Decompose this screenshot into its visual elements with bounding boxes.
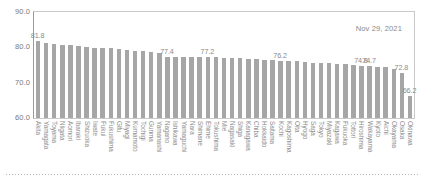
x-axis-tick: Kyoto [375, 120, 380, 172]
bar[interactable] [76, 46, 81, 118]
bar[interactable] [286, 61, 291, 118]
bar[interactable] [68, 45, 73, 118]
bar[interactable] [359, 66, 364, 118]
bar-chart: 90.080.070.060.0 81.877.477.276.274.874.… [0, 0, 424, 182]
bar[interactable] [246, 59, 251, 118]
bar[interactable] [230, 58, 235, 118]
bar[interactable] [157, 53, 162, 118]
bar-slot[interactable] [197, 12, 202, 118]
bar-slot[interactable] [117, 12, 122, 118]
bar-slot[interactable] [311, 12, 316, 118]
bar-slot[interactable] [52, 12, 57, 118]
bar[interactable] [84, 47, 89, 118]
bar-slot[interactable] [92, 12, 97, 118]
bar-slot[interactable] [141, 12, 146, 118]
bar[interactable] [165, 57, 170, 118]
x-axis-tick-label: Akita [35, 121, 41, 135]
bar[interactable] [181, 57, 186, 118]
bar-slot[interactable] [222, 12, 227, 118]
x-axis-tick-label: Wakayama [366, 121, 372, 152]
x-axis-tick: Gunma [149, 120, 154, 172]
bar[interactable] [197, 57, 202, 118]
bar-slot[interactable] [270, 12, 275, 118]
bar[interactable] [254, 59, 259, 118]
bar[interactable] [270, 60, 275, 118]
bar[interactable] [189, 57, 194, 118]
bar-slot[interactable] [125, 12, 130, 118]
x-axis-tick: Tochigi [141, 120, 146, 172]
bar-slot[interactable] [254, 12, 259, 118]
bar-slot[interactable] [157, 12, 162, 118]
bar[interactable] [125, 50, 130, 118]
bar-slot[interactable] [230, 12, 235, 118]
bar-slot[interactable] [408, 12, 413, 118]
bar[interactable] [303, 62, 308, 118]
bar[interactable] [222, 58, 227, 118]
bar-slot[interactable] [60, 12, 65, 118]
bar-slot[interactable] [319, 12, 324, 118]
bar-slot[interactable] [68, 12, 73, 118]
bar[interactable] [295, 61, 300, 118]
bar-slot[interactable] [36, 12, 41, 118]
bar-slot[interactable] [189, 12, 194, 118]
bar-slot[interactable] [76, 12, 81, 118]
bar[interactable] [44, 43, 49, 118]
bar[interactable] [133, 51, 138, 118]
bar[interactable] [400, 73, 405, 118]
bar-slot[interactable] [286, 12, 291, 118]
bar-slot[interactable] [206, 12, 211, 118]
bar-slot[interactable] [295, 12, 300, 118]
bar[interactable] [100, 48, 105, 118]
bar-slot[interactable] [327, 12, 332, 118]
bar[interactable] [375, 67, 380, 118]
bar-slot[interactable] [100, 12, 105, 118]
bar-slot[interactable] [246, 12, 251, 118]
bar[interactable] [262, 60, 267, 118]
x-axis-tick-label: Oita [294, 121, 300, 133]
bar-slot[interactable] [44, 12, 49, 118]
x-axis-tick: Okinawa [408, 120, 413, 172]
x-axis-tick-label: Tochigi [140, 121, 146, 141]
bar[interactable] [319, 63, 324, 118]
bar[interactable] [141, 51, 146, 118]
bar-slot[interactable] [238, 12, 243, 118]
bar-slot[interactable] [149, 12, 154, 118]
bar[interactable] [383, 67, 388, 118]
bar[interactable] [206, 57, 211, 118]
bar[interactable] [351, 65, 356, 118]
bar-slot[interactable] [343, 12, 348, 118]
bar[interactable] [52, 44, 57, 118]
bar[interactable] [392, 69, 397, 118]
y-axis-tick-label: 60.0 [15, 114, 30, 122]
bar-slot[interactable] [173, 12, 178, 118]
bar[interactable] [173, 57, 178, 118]
bar[interactable] [117, 49, 122, 118]
bar-slot[interactable] [262, 12, 267, 118]
bar[interactable] [278, 61, 283, 118]
bar[interactable] [327, 63, 332, 118]
x-axis-tick-label: Fukui [100, 121, 106, 136]
bar[interactable] [311, 63, 316, 118]
bar-slot[interactable] [303, 12, 308, 118]
bar[interactable] [367, 66, 372, 118]
bar[interactable] [149, 52, 154, 118]
bar[interactable] [408, 96, 413, 118]
bar-slot[interactable] [133, 12, 138, 118]
bar-slot[interactable] [335, 12, 340, 118]
bar[interactable] [92, 48, 97, 118]
bar[interactable] [335, 64, 340, 118]
x-axis-tick-label: Yamaguchi [180, 121, 186, 152]
bar[interactable] [238, 58, 243, 118]
bar[interactable] [214, 57, 219, 118]
bar-slot[interactable] [278, 12, 283, 118]
x-axis-tick-label: Kochi [277, 121, 283, 137]
bar-slot[interactable] [109, 12, 114, 118]
bar[interactable] [109, 48, 114, 118]
bar[interactable] [60, 45, 65, 118]
bar-slot[interactable] [165, 12, 170, 118]
bar-slot[interactable] [214, 12, 219, 118]
bar[interactable] [36, 41, 41, 118]
bar-slot[interactable] [181, 12, 186, 118]
bar[interactable] [343, 64, 348, 118]
bar-slot[interactable] [84, 12, 89, 118]
